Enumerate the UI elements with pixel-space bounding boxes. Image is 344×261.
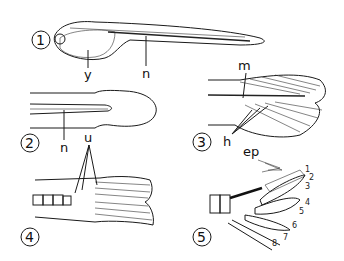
- ray-label-3: 3: [305, 182, 310, 191]
- ray-label-4: 4: [305, 198, 310, 207]
- ray-label-6: 6: [292, 221, 297, 230]
- panel-number-1: 1: [36, 32, 45, 48]
- panel-4: u 4: [21, 130, 153, 246]
- label-n-1: n: [142, 66, 150, 81]
- panel-number-3: 3: [197, 134, 206, 150]
- label-u: u: [84, 130, 92, 145]
- panel-number-4: 4: [25, 229, 34, 245]
- ray-label-2: 2: [309, 173, 314, 182]
- ray-label-7: 7: [283, 233, 288, 242]
- label-m: m: [238, 58, 251, 73]
- panel-3: m h 3: [193, 58, 325, 151]
- figure-canvas: 1 y n n 2 m h 3: [0, 0, 344, 261]
- label-y: y: [84, 67, 92, 82]
- panel-number-5: 5: [197, 229, 206, 245]
- ray-label-8: 8: [272, 239, 277, 248]
- label-ep: ep: [243, 144, 259, 159]
- label-n-2: n: [60, 140, 68, 155]
- panel-number-2: 2: [25, 135, 34, 151]
- ray-label-5: 5: [299, 207, 304, 216]
- panel-5: ep 1 2 3 4 5 6 7 8 5: [193, 144, 314, 250]
- panel-1: 1 y n: [32, 22, 264, 82]
- label-h: h: [223, 134, 231, 149]
